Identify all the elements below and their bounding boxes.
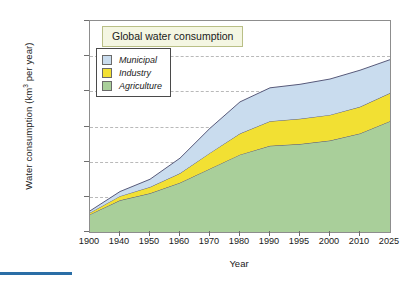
x-axis-title: Year xyxy=(89,258,389,269)
x-tick-mark xyxy=(359,231,360,236)
legend-label: Agriculture xyxy=(119,81,162,91)
bottom-accent-rule xyxy=(0,272,72,275)
x-tick-mark xyxy=(119,231,120,236)
legend-label: Industry xyxy=(119,68,151,78)
y-tick-mark xyxy=(84,126,89,127)
x-tick-mark xyxy=(209,231,210,236)
x-tick-mark xyxy=(299,231,300,236)
chart-legend: MunicipalIndustryAgriculture xyxy=(96,48,171,97)
y-tick-mark xyxy=(84,55,89,56)
legend-swatch-icon xyxy=(102,81,112,91)
x-tick-mark xyxy=(239,231,240,236)
y-tick-mark xyxy=(84,20,89,21)
x-tick-label: 2025 xyxy=(366,236,412,246)
y-tick-mark xyxy=(84,161,89,162)
y-axis-title: Water consumption (km3 per year) xyxy=(22,6,34,226)
chart-title: Global water consumption xyxy=(102,26,243,47)
y-tick-mark xyxy=(84,231,89,232)
y-tick-mark xyxy=(84,196,89,197)
x-tick-mark xyxy=(179,231,180,236)
legend-item-industry: Industry xyxy=(102,66,162,79)
x-tick-mark xyxy=(269,231,270,236)
x-tick-mark xyxy=(149,231,150,236)
legend-item-agriculture: Agriculture xyxy=(102,79,162,92)
legend-label: Municipal xyxy=(119,55,157,65)
water-consumption-figure: Water consumption (km3 per year) 01,0002… xyxy=(0,0,412,281)
y-tick-mark xyxy=(84,90,89,91)
x-tick-mark xyxy=(329,231,330,236)
legend-swatch-icon xyxy=(102,68,112,78)
legend-swatch-icon xyxy=(102,55,112,65)
legend-item-municipal: Municipal xyxy=(102,53,162,66)
